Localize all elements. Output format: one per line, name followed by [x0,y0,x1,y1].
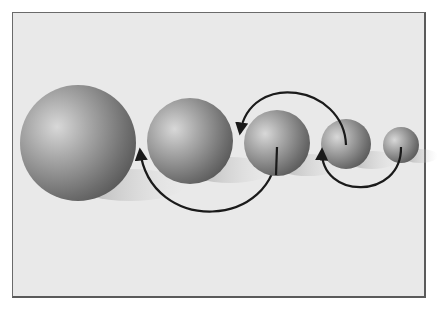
arrow-sphere3-stem [276,147,277,175]
sphere-1 [20,85,136,201]
spheres [20,85,419,201]
spheres-diagram [0,0,440,310]
sphere-2 [147,98,233,184]
